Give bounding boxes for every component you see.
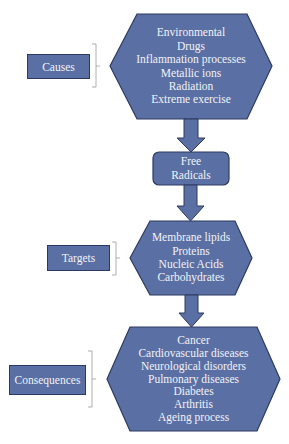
targets-bracket-icon <box>112 242 120 275</box>
free-radicals-line: Radicals <box>171 169 211 182</box>
causes-label: Causes <box>27 54 90 79</box>
free-radicals-line: Free <box>181 155 201 168</box>
causes-label-text: Causes <box>42 61 75 73</box>
target-item: Nucleic Acids <box>159 258 224 271</box>
consequence-item: Cancer <box>177 334 210 347</box>
consequence-item: Cardiovascular diseases <box>138 347 248 360</box>
consequence-item: Diabetes <box>173 385 213 398</box>
cause-item: Environmental <box>157 26 225 39</box>
target-item: Carbohydrates <box>157 271 224 284</box>
consequence-item: Neurological disorders <box>141 360 246 373</box>
consequence-item: Arthritis <box>174 398 213 411</box>
targets-label: Targets <box>47 245 110 271</box>
consequence-item: Pulmonary diseases <box>148 373 239 386</box>
cause-item: Inflammation processes <box>136 53 246 66</box>
causes-bracket-icon <box>92 44 100 87</box>
consequence-item: Ageing process <box>158 411 229 424</box>
cause-item: Extreme exercise <box>151 93 231 106</box>
targets-list: Membrane lipids Proteins Nucleic Acids C… <box>130 221 252 295</box>
cause-item: Radiation <box>169 80 214 93</box>
free-radicals-text: Free Radicals <box>153 152 229 185</box>
down-arrow-icon <box>177 185 204 221</box>
targets-label-text: Targets <box>62 252 95 264</box>
consequences-label-text: Consequences <box>15 374 81 386</box>
down-arrow-icon <box>177 119 205 152</box>
consequences-label: Consequences <box>9 365 86 395</box>
down-arrow-icon <box>179 295 204 327</box>
target-item: Proteins <box>172 245 210 258</box>
causes-list: Environmental Drugs Inflammation process… <box>110 14 272 119</box>
target-item: Membrane lipids <box>152 231 230 244</box>
consequences-list: Cancer Cardiovascular diseases Neurologi… <box>107 327 280 431</box>
cause-item: Metallic ions <box>161 67 221 80</box>
cause-item: Drugs <box>177 40 205 53</box>
consequences-bracket-icon <box>88 351 96 407</box>
